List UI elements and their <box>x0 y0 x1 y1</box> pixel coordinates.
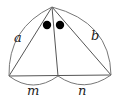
angle-marker-dot-left <box>43 21 51 29</box>
label-m: m <box>27 83 39 98</box>
bisector-line <box>52 7 58 76</box>
label-n: n <box>78 83 86 98</box>
base-line <box>9 75 111 76</box>
triangle-diagram: a b m n <box>0 0 115 101</box>
label-a: a <box>14 30 22 45</box>
angle-marker-dot-right <box>56 21 64 29</box>
label-b: b <box>91 28 99 43</box>
